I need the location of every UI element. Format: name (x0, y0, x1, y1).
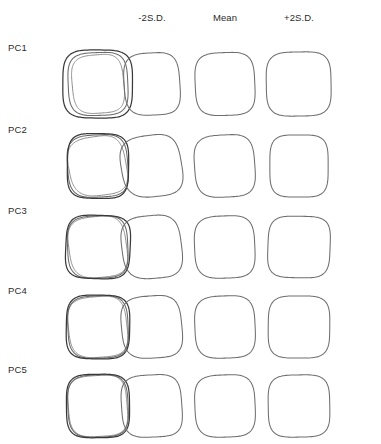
shape-pc4-mean (185, 287, 265, 367)
outline-pc1-mean (195, 52, 255, 115)
outline-pc1-minus2sd (124, 53, 181, 116)
shape-pc5-minus2sd (112, 366, 192, 444)
shape-pc3-minus2sd (112, 207, 192, 287)
row-label-pc4: PC4 (8, 285, 27, 296)
outline-pc3-minus2sd (121, 215, 183, 279)
shape-pc1-minus2sd (112, 44, 192, 124)
column-header-plus2sd: +2S.D. (284, 12, 314, 23)
column-header-mean: Mean (213, 12, 237, 23)
shape-pc1-mean (185, 44, 265, 124)
shape-pc1-plus2sd (259, 44, 339, 124)
shape-pc5-mean (185, 366, 265, 444)
pca-shape-figure: -2S.D.Mean+2S.D.PC1PC2PC3PC4PC5 (0, 0, 381, 444)
shape-pc4-minus2sd (112, 287, 192, 367)
shape-pc5-plus2sd (259, 366, 339, 444)
outline-pc4-plus2sd (268, 296, 330, 358)
shape-pc3-plus2sd (259, 207, 339, 287)
outline-pc2-mean (194, 135, 255, 198)
shape-pc2-mean (185, 126, 265, 206)
shape-pc2-minus2sd (112, 126, 192, 206)
outline-pc1-plus2sd (266, 52, 331, 116)
shape-pc2-plus2sd (259, 126, 339, 206)
outline-pc5-mean (195, 375, 256, 437)
row-label-pc2: PC2 (8, 124, 27, 135)
row-label-pc5: PC5 (8, 364, 27, 375)
outline-pc2-minus2sd (120, 134, 183, 197)
outline-pc3-plus2sd (268, 216, 331, 278)
outline-pc5-minus2sd (121, 375, 182, 438)
column-header-minus2sd: -2S.D. (138, 12, 166, 23)
outline-pc4-minus2sd (121, 295, 183, 358)
outline-pc4-mean (195, 296, 256, 358)
outline-pc5-plus2sd (268, 375, 330, 437)
shape-pc4-plus2sd (259, 287, 339, 367)
row-label-pc3: PC3 (8, 205, 27, 216)
row-label-pc1: PC1 (8, 42, 27, 53)
outline-pc2-plus2sd (270, 135, 328, 197)
outline-pc3-mean (194, 216, 255, 278)
shape-pc3-mean (185, 207, 265, 287)
